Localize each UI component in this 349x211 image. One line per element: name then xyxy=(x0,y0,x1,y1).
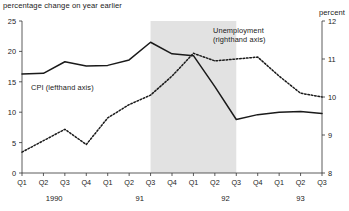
x-axis-quarter-label: Q3 xyxy=(226,178,246,187)
left-axis-tick-label: 20 xyxy=(0,47,16,56)
right-axis-tick-label: 9 xyxy=(328,131,344,140)
x-axis-quarter-label: Q4 xyxy=(162,178,182,187)
unemployment-series-label: Unemployment (righthand axis) xyxy=(213,26,266,45)
x-axis-quarter-label: Q2 xyxy=(119,178,139,187)
unemployment-series-label-line1: Unemployment xyxy=(213,26,266,35)
unemployment-series-label-line2: (righthand axis) xyxy=(213,35,266,44)
x-axis-quarter-label: Q4 xyxy=(248,178,268,187)
x-axis-year-label: 92 xyxy=(206,194,246,203)
left-axis-tick-label: 0 xyxy=(0,169,16,178)
x-axis-quarter-label: Q2 xyxy=(205,178,225,187)
x-axis-year-label: 93 xyxy=(281,194,321,203)
x-axis-quarter-label: Q3 xyxy=(55,178,75,187)
x-axis-quarter-label: Q4 xyxy=(76,178,96,187)
x-axis-quarter-label: Q1 xyxy=(183,178,203,187)
right-axis-tick-label: 11 xyxy=(328,55,344,64)
left-axis-tick-label: 15 xyxy=(0,78,16,87)
right-axis-tick-label: 8 xyxy=(328,169,344,178)
x-axis-quarter-label: Q1 xyxy=(98,178,118,187)
left-axis-tick-label: 25 xyxy=(0,17,16,26)
x-axis-quarter-label: Q1 xyxy=(269,178,289,187)
x-axis-year-label: 1990 xyxy=(34,194,74,203)
x-axis-quarter-label: Q3 xyxy=(312,178,332,187)
x-axis-year-label: 91 xyxy=(120,194,160,203)
chart-figure: percentage change on year earlier percen… xyxy=(0,0,349,211)
x-axis-quarter-label: Q2 xyxy=(291,178,311,187)
x-axis-quarter-label: Q3 xyxy=(141,178,161,187)
right-axis-tick-label: 10 xyxy=(328,93,344,102)
left-axis-tick-label: 5 xyxy=(0,139,16,148)
right-axis-tick-label: 12 xyxy=(328,17,344,26)
x-axis-quarter-label: Q2 xyxy=(33,178,53,187)
x-axis-quarter-label: Q1 xyxy=(12,178,32,187)
cpi-series-label: CPI (lefthand axis) xyxy=(31,84,94,92)
left-axis-tick-label: 10 xyxy=(0,108,16,117)
